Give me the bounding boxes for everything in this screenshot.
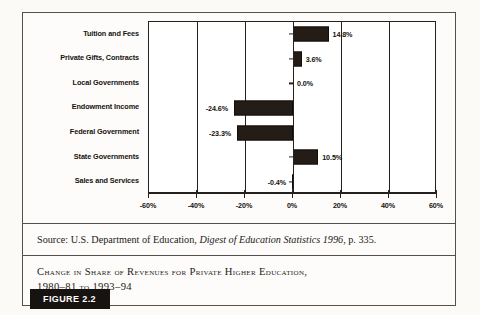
figure-number-badge: FIGURE 2.2 (30, 289, 110, 309)
category-label: Private Gifts, Contracts (60, 46, 139, 71)
figure-frame: Tuition and FeesPrivate Gifts, Contracts… (22, 12, 456, 306)
zero-axis-line (293, 22, 294, 192)
bar-row: 14.8% (149, 22, 435, 47)
category-label: Local Governments (73, 70, 139, 95)
bar (237, 125, 293, 140)
bar-value-label: 14.8% (333, 30, 353, 39)
category-label: Tuition and Fees (83, 21, 139, 46)
x-axis: -60%-40%-20%0%20%40%60% (148, 193, 436, 217)
axis-tick (148, 190, 149, 198)
bar-rows: 14.8%3.6%0.0%-24.6%-23.3%10.5%-0.4% (149, 22, 435, 192)
source-italic-title: Digest of Education Statistics 1996 (199, 234, 343, 245)
axis-tick (436, 190, 437, 198)
category-label: Sales and Services (75, 168, 139, 193)
bar-value-label: -0.4% (268, 177, 286, 186)
axis-tick (196, 190, 197, 198)
axis-tick-label: -20% (236, 201, 252, 210)
category-label: Endowment Income (72, 95, 139, 120)
axis-tick (388, 190, 389, 198)
source-text: Source: U.S. Department of Education, Di… (23, 234, 376, 245)
bar-value-label: 10.5% (322, 153, 342, 162)
bar (293, 27, 329, 42)
bar (234, 100, 293, 115)
bar-row: 10.5% (149, 145, 435, 170)
bar (293, 51, 302, 66)
category-axis-labels: Tuition and FeesPrivate Gifts, Contracts… (23, 21, 145, 193)
bar-row: 0.0% (149, 71, 435, 96)
axis-tick-label: 20% (333, 201, 347, 210)
caption-line-1: Change in Share of Revenues for Private … (37, 265, 455, 280)
bar-value-label: 0.0% (297, 79, 313, 88)
axis-tick-label: -40% (188, 201, 204, 210)
axis-tick (244, 190, 245, 198)
chart-panel: Tuition and FeesPrivate Gifts, Contracts… (23, 13, 455, 223)
axis-tick-label: -60% (140, 201, 156, 210)
axis-tick-label: 40% (381, 201, 395, 210)
source-strip: Source: U.S. Department of Education, Di… (23, 223, 455, 255)
axis-tick-label: 60% (429, 201, 443, 210)
bar-value-label: -23.3% (209, 128, 231, 137)
axis-tick-label: 0% (287, 201, 297, 210)
bar-row: 3.6% (149, 47, 435, 72)
axis-tick (340, 190, 341, 198)
bar-row: -23.3% (149, 120, 435, 145)
bar-row: -24.6% (149, 96, 435, 121)
category-label: State Governments (74, 144, 139, 169)
bar-value-label: 3.6% (306, 54, 322, 63)
bar (293, 150, 318, 165)
plot-area: 14.8%3.6%0.0%-24.6%-23.3%10.5%-0.4% (148, 21, 436, 193)
axis-tick (292, 190, 293, 198)
source-suffix: , p. 335. (343, 234, 376, 245)
bar-value-label: -24.6% (206, 103, 228, 112)
category-label: Federal Government (70, 119, 139, 144)
source-prefix: Source: U.S. Department of Education, (37, 234, 199, 245)
